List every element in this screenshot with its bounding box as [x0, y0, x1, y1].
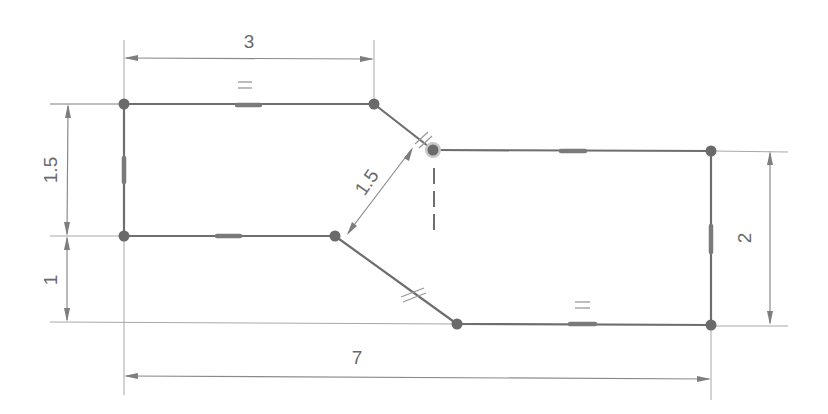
arrow-up-icon [64, 236, 70, 250]
vertex-point[interactable] [119, 99, 130, 110]
edge-lower-slant[interactable] [335, 236, 457, 324]
arrow-down-icon [64, 308, 70, 322]
vertex-point[interactable] [330, 231, 341, 242]
arrow-left-icon [124, 373, 138, 379]
dimension-line [126, 376, 709, 379]
dimension-line [67, 106, 68, 234]
dimension-left-upper-height[interactable]: 1.5 [40, 104, 71, 236]
dimension-label: 7 [352, 347, 363, 368]
sketch-profile[interactable] [124, 104, 711, 325]
vertex-point[interactable] [452, 319, 463, 330]
extension-lines [50, 40, 788, 400]
sketch-canvas: 3 1.5 1 1.5 2 7 [0, 0, 828, 414]
arrow-right-icon [360, 56, 374, 62]
arrow-up-icon [65, 104, 71, 118]
dimension-label: 1 [40, 275, 61, 286]
dimension-top-width[interactable]: 3 [124, 31, 374, 62]
dimension-right-height[interactable]: 2 [734, 151, 773, 325]
arrow-left-icon [124, 55, 138, 61]
vertex-point[interactable] [428, 145, 439, 156]
arrow-down-icon [767, 311, 773, 325]
equal-constraint-icon [575, 302, 590, 308]
arrow-down-icon [64, 222, 70, 236]
vertex-point[interactable] [706, 146, 717, 157]
dimension-left-lower-height[interactable]: 1 [40, 236, 70, 322]
dimension-line [126, 58, 372, 59]
arrow-up-icon [767, 151, 773, 165]
arrow-right-icon [697, 376, 711, 382]
dimension-label: 3 [244, 31, 255, 52]
ext-line-left-bottom [50, 322, 457, 324]
vertex-point[interactable] [119, 231, 130, 242]
ext-line-right-top [711, 151, 788, 152]
dimension-label: 1.5 [40, 157, 61, 183]
vertex-point[interactable] [369, 99, 380, 110]
dimension-overall-width[interactable]: 7 [124, 347, 711, 382]
arrow-upper-icon [404, 147, 413, 161]
vertex-point[interactable] [706, 320, 717, 331]
dimension-slant-distance[interactable]: 1.5 [347, 147, 413, 235]
dimension-label: 2 [734, 233, 755, 244]
equal-constraint-icon [238, 82, 252, 88]
constraint-markers [124, 82, 711, 324]
